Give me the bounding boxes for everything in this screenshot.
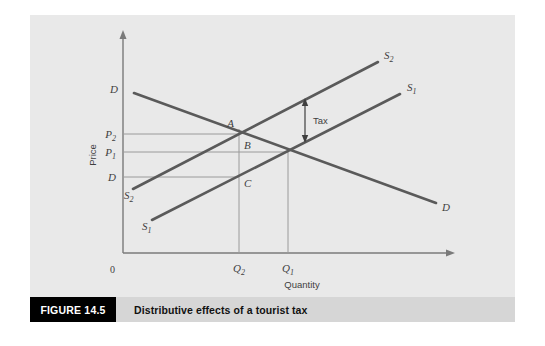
supply-s1-label-upper-right-sub: 1 <box>413 87 417 96</box>
y-tick-label-p1: P1 <box>104 146 116 161</box>
supply-curve-s2[interactable] <box>133 62 378 189</box>
axes <box>120 30 456 257</box>
point-label-b: B <box>244 139 251 151</box>
y-tick-label-d: D <box>107 171 116 183</box>
x-tick-label-q2-sub: 2 <box>241 268 245 277</box>
y-tick-label-p2-sub: 2 <box>112 134 116 143</box>
supply-s1-label-lower-left-sub: 1 <box>148 226 152 235</box>
point-label-a: A <box>226 117 234 129</box>
figure-number-tag: FIGURE 14.5 <box>30 297 116 322</box>
figure-container: Tax D D S2 S1 S2 <box>0 0 545 346</box>
supply-s2-label-upper-right: S2 <box>384 49 394 64</box>
supply-s1-label-lower-left: S1 <box>142 220 152 235</box>
x-tick-label-q1-letter: Q <box>282 262 290 274</box>
x-axis-arrowhead <box>446 250 455 257</box>
demand-label-lower-right: D <box>441 201 450 213</box>
figure-caption-bar: FIGURE 14.5 Distributive effects of a to… <box>30 297 515 322</box>
curve-labels: D D S2 S1 S2 S1 <box>109 49 450 235</box>
supply-demand-chart: Tax D D S2 S1 S2 <box>30 15 515 297</box>
curves <box>133 62 436 220</box>
figure-caption-text: Distributive effects of a tourist tax <box>134 297 307 322</box>
x-tick-label-q1-sub: 1 <box>290 268 294 277</box>
y-axis-arrowhead <box>120 30 127 39</box>
figure-panel: Tax D D S2 S1 S2 <box>30 15 515 297</box>
y-axis-title: Price <box>87 144 98 166</box>
tax-label: Tax <box>313 115 328 126</box>
supply-s1-label-upper-right: S1 <box>407 81 417 96</box>
x-tick-label-q2-letter: Q <box>233 262 241 274</box>
x-tick-label-q1: Q1 <box>282 262 294 277</box>
point-label-c: C <box>244 177 252 189</box>
y-tick-label-p2: P2 <box>104 128 116 143</box>
supply-s2-label-lower-left: S2 <box>124 189 134 204</box>
x-axis-title: Quantity <box>284 279 320 290</box>
demand-label-upper-left: D <box>109 83 118 95</box>
supply-s2-label-upper-right-sub: 2 <box>390 55 394 64</box>
y-tick-label-p1-sub: 1 <box>112 152 116 161</box>
x-tick-label-q2: Q2 <box>233 262 245 277</box>
origin-label: 0 <box>110 264 115 275</box>
supply-s2-label-lower-left-sub: 2 <box>130 195 134 204</box>
